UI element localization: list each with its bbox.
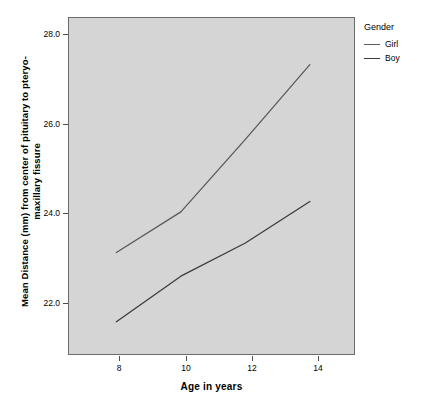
legend-label-boy: Boy: [385, 53, 400, 63]
legend: Gender Girl Boy: [364, 22, 421, 67]
y-axis-title-line-1: Mean Distance (mm) from center of pituit…: [19, 56, 30, 307]
x-tick-mark: [252, 356, 253, 361]
y-tick-label: 22.0: [26, 298, 60, 308]
x-tick-mark: [318, 356, 319, 361]
series-line-girl: [116, 65, 309, 253]
x-tick-label: 8: [104, 363, 134, 373]
y-tick-label: 26.0: [26, 119, 60, 129]
x-tick-label: 10: [171, 363, 201, 373]
y-tick-mark: [63, 213, 68, 214]
x-tick-mark: [119, 356, 120, 361]
x-tick-label: 12: [237, 363, 267, 373]
legend-line-swatch-girl: [364, 44, 380, 45]
x-axis-title: Age in years: [68, 381, 355, 392]
y-tick-mark: [63, 303, 68, 304]
legend-item-boy[interactable]: Boy: [364, 53, 421, 63]
legend-item-girl[interactable]: Girl: [364, 39, 421, 49]
plot-area: [68, 17, 355, 355]
y-tick-mark: [63, 34, 68, 35]
legend-line-swatch-boy: [364, 58, 380, 59]
y-tick-mark: [63, 124, 68, 125]
y-tick-label: 28.0: [26, 29, 60, 39]
x-tick-label: 14: [303, 363, 333, 373]
x-tick-mark: [186, 356, 187, 361]
series-line-boy: [116, 202, 309, 322]
legend-label-girl: Girl: [385, 39, 398, 49]
y-tick-label: 24.0: [26, 208, 60, 218]
line-chart: Mean Distance (mm) from center of pituit…: [0, 0, 421, 412]
legend-title: Gender: [364, 22, 421, 32]
